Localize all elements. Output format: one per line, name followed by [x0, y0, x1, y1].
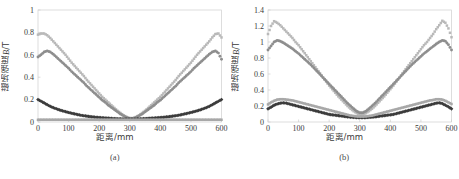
y-axis-label-a-unit: /T [1, 41, 11, 49]
y-tick-label: 1.4 [254, 6, 264, 15]
data-point [439, 22, 442, 25]
y-axis-label-b-unit: /T [231, 41, 241, 49]
series-series-4-flat [37, 119, 223, 122]
y-axis-label-b: 磁场强度B/T [232, 18, 246, 114]
data-point [445, 24, 448, 27]
y-axis-label-a-symbol: B [1, 49, 11, 54]
plot-area-b: 00.20.40.60.811.21.40100200300400500600 [230, 0, 459, 150]
y-tick-label: 1 [30, 6, 34, 15]
y-axis-label-a: 磁场强度B/T [2, 18, 16, 114]
y-tick-label: 1.2 [254, 22, 264, 31]
data-point [268, 29, 271, 32]
y-tick-label: 0.8 [254, 54, 264, 63]
data-point [220, 36, 223, 39]
subfigure-a: 00.20.40.60.810100200300400500600 磁场强度B/… [0, 0, 230, 179]
data-point [450, 36, 453, 39]
y-tick-label: 1 [260, 38, 264, 47]
data-point [220, 58, 223, 61]
caption-a: (a) [0, 152, 230, 162]
data-point [446, 43, 449, 46]
data-point [447, 27, 450, 30]
y-axis-label-b-symbol: B [231, 49, 241, 54]
y-tick-label: 0.2 [254, 102, 264, 111]
y-axis-label-a-main: 磁场强度 [1, 55, 11, 91]
data-point [220, 119, 223, 122]
caption-b: (b) [230, 152, 459, 162]
data-point [438, 24, 441, 27]
y-tick-label: 0.6 [24, 51, 34, 60]
data-point [433, 30, 436, 32]
data-point [266, 33, 269, 36]
x-axis-label-b: 距离/mm [230, 130, 459, 142]
data-point [448, 46, 451, 49]
y-tick-label: 0.4 [24, 73, 34, 82]
scatter-plot-b: 00.20.40.60.811.21.40100200300400500600 [230, 0, 459, 150]
y-tick-label: 0 [30, 118, 34, 127]
data-point [217, 52, 220, 55]
y-tick-label: 0 [260, 118, 264, 127]
data-point [269, 25, 272, 28]
y-tick-label: 0.6 [254, 70, 264, 79]
y-tick-label: 0.8 [24, 28, 34, 37]
scatter-plot-a: 00.20.40.60.810100200300400500600 [0, 0, 230, 150]
data-point [450, 49, 453, 52]
figure-container: 00.20.40.60.810100200300400500600 磁场强度B/… [0, 0, 459, 179]
subfigure-b: 00.20.40.60.811.21.40100200300400500600 … [230, 0, 459, 179]
data-point [450, 103, 453, 106]
data-point [448, 32, 451, 35]
data-point [219, 55, 222, 58]
data-point [444, 22, 447, 25]
data-point [431, 33, 434, 36]
data-point [271, 22, 274, 25]
x-axis-label-a: 距离/mm [0, 130, 230, 142]
y-tick-label: 0.4 [254, 86, 264, 95]
plot-area-a: 00.20.40.60.810100200300400500600 [0, 0, 230, 150]
y-axis-label-b-main: 磁场强度 [231, 55, 241, 91]
y-tick-label: 0.2 [24, 95, 34, 104]
